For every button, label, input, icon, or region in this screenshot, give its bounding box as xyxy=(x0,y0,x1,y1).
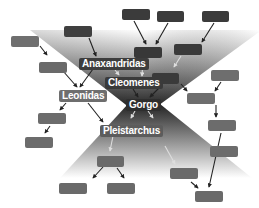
edge-arrow-u10-to-u11 xyxy=(215,82,221,91)
node-box-u2[interactable] xyxy=(157,11,184,22)
node-box-u1[interactable] xyxy=(122,9,150,20)
lower-funnel-shape xyxy=(60,104,252,178)
node-box-u18[interactable] xyxy=(59,183,87,194)
node-box-u5[interactable] xyxy=(11,36,39,47)
node-box-u3[interactable] xyxy=(202,11,229,22)
node-box-u4[interactable] xyxy=(64,26,92,37)
node-box-u7[interactable] xyxy=(174,44,202,55)
edge-arrow-u17-to-u20 xyxy=(191,182,198,188)
edge-arrow-leonidas-to-u12 xyxy=(60,103,66,110)
node-box-u11[interactable] xyxy=(187,93,215,104)
edge-arrow-u12-to-u14 xyxy=(45,126,50,133)
node-cleomenes[interactable]: Cleomenes xyxy=(105,77,163,89)
node-gorgo[interactable]: Gorgo xyxy=(126,99,161,111)
edge-arrow-u5-to-u8 xyxy=(40,46,47,55)
node-box-u14[interactable] xyxy=(25,137,53,148)
node-leonidas[interactable]: Leonidas xyxy=(59,90,107,102)
node-box-u8[interactable] xyxy=(39,62,67,73)
node-box-u15[interactable] xyxy=(210,146,238,157)
node-box-u17[interactable] xyxy=(170,168,198,179)
node-box-u19[interactable] xyxy=(107,183,135,194)
node-box-u20[interactable] xyxy=(195,191,223,202)
node-box-u10[interactable] xyxy=(211,70,239,81)
node-pleistarchus[interactable]: Pleistarchus xyxy=(100,125,163,137)
node-box-u13[interactable] xyxy=(208,120,236,131)
edge-arrow-u8-to-leonidas xyxy=(63,71,77,87)
node-box-u16[interactable] xyxy=(97,156,124,167)
node-anaxandridas[interactable]: Anaxandridas xyxy=(79,58,149,70)
edge-arrow-leonidas-to-pleistarchus xyxy=(88,103,103,122)
node-box-u6[interactable] xyxy=(134,47,162,58)
node-box-u12[interactable] xyxy=(38,113,66,124)
